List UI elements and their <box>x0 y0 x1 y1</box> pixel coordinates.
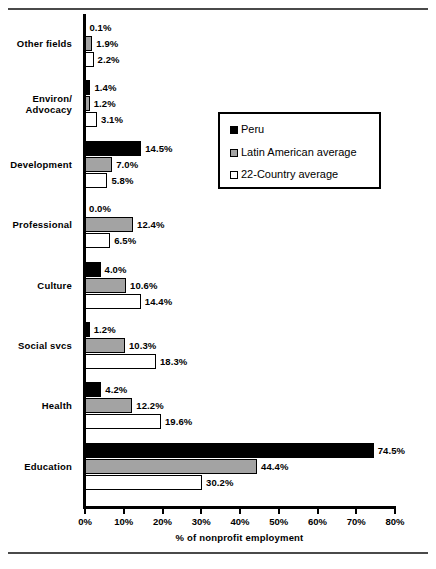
bar <box>85 475 202 490</box>
legend-box: Peru Latin American average 22-Country a… <box>218 112 381 189</box>
x-axis-tick <box>200 509 202 514</box>
bar <box>85 141 141 156</box>
bar-value-label: 1.4% <box>94 80 116 95</box>
bar <box>85 52 94 67</box>
bar-value-label: 1.2% <box>94 322 116 337</box>
bar <box>85 96 90 111</box>
legend-swatch-22-country-average <box>230 171 238 179</box>
legend-swatch-peru <box>230 126 238 134</box>
bar-value-label: 0.0% <box>89 201 111 216</box>
x-axis-tick <box>278 509 280 514</box>
bar <box>85 398 132 413</box>
bar <box>85 382 101 397</box>
x-axis-tick <box>317 509 319 514</box>
bar-value-label: 12.4% <box>137 217 164 232</box>
bar <box>85 338 125 353</box>
x-axis-tick-label: 30% <box>181 516 221 527</box>
category-label: Professional <box>0 219 72 230</box>
legend-label-latin-american-average: Latin American average <box>241 147 357 158</box>
bar-value-label: 14.5% <box>145 141 172 156</box>
x-axis-tick <box>84 509 86 514</box>
category-label: Education <box>0 461 72 472</box>
bar-value-label: 10.3% <box>129 338 156 353</box>
top-rule <box>8 8 428 10</box>
bar <box>85 112 97 127</box>
bar-value-label: 1.9% <box>96 36 118 51</box>
bar-value-label: 4.0% <box>105 262 127 277</box>
bar-value-label: 44.4% <box>261 459 288 474</box>
plot-area: Other fields0.1%1.9%2.2%Environ/ Advocac… <box>0 14 436 506</box>
figure: Other fields0.1%1.9%2.2%Environ/ Advocac… <box>0 0 436 569</box>
bar-value-label: 10.6% <box>130 278 157 293</box>
legend-label-peru: Peru <box>241 124 264 135</box>
bar-value-label: 74.5% <box>378 443 405 458</box>
x-axis-tick-label: 0% <box>65 516 105 527</box>
category-label: Environ/ Advocacy <box>0 93 72 115</box>
x-axis-tick <box>394 509 396 514</box>
bar <box>85 173 107 188</box>
legend-swatch-latin-american-average <box>230 149 238 157</box>
x-axis-tick-label: 40% <box>220 516 260 527</box>
bar <box>85 354 156 369</box>
bar-value-label: 7.0% <box>116 157 138 172</box>
bar <box>85 233 110 248</box>
bar <box>85 322 90 337</box>
legend-item-22-country-average: 22-Country average <box>230 169 338 180</box>
x-axis-tick-label: 80% <box>375 516 415 527</box>
x-axis-tick-label: 70% <box>336 516 376 527</box>
x-axis-tick-label: 60% <box>298 516 338 527</box>
bar <box>85 294 141 309</box>
x-axis-tick-label: 10% <box>104 516 144 527</box>
x-axis-tick-label: 20% <box>143 516 183 527</box>
bar <box>85 36 92 51</box>
legend-item-latin-american-average: Latin American average <box>230 147 357 158</box>
bar <box>85 262 101 277</box>
bar-value-label: 1.2% <box>94 96 116 111</box>
category-label: Development <box>0 159 72 170</box>
bar <box>85 443 374 458</box>
bar-value-label: 12.2% <box>136 398 163 413</box>
bar-value-label: 18.3% <box>160 354 187 369</box>
bar-value-label: 3.1% <box>101 112 123 127</box>
category-label: Social svcs <box>0 340 72 351</box>
x-axis-tick <box>355 509 357 514</box>
bar-value-label: 19.6% <box>165 414 192 429</box>
bar <box>85 414 161 429</box>
bar-value-label: 4.2% <box>105 382 127 397</box>
bar-value-label: 0.1% <box>89 20 111 35</box>
category-label: Health <box>0 400 72 411</box>
x-axis-title: % of nonprofit employment <box>83 532 396 543</box>
category-label: Culture <box>0 280 72 291</box>
legend-label-22-country-average: 22-Country average <box>241 169 338 180</box>
x-axis-tick <box>239 509 241 514</box>
bar <box>85 459 257 474</box>
bar-value-label: 6.5% <box>114 233 136 248</box>
bar-value-label: 2.2% <box>98 52 120 67</box>
bar-value-label: 14.4% <box>145 294 172 309</box>
bar <box>85 157 112 172</box>
category-label: Other fields <box>0 38 72 49</box>
x-axis-tick <box>123 509 125 514</box>
x-axis-tick-label: 50% <box>259 516 299 527</box>
bar <box>85 217 133 232</box>
bar <box>85 278 126 293</box>
bar-value-label: 5.8% <box>111 173 133 188</box>
legend-item-peru: Peru <box>230 124 264 135</box>
bottom-rule <box>8 552 428 554</box>
x-axis-tick <box>162 509 164 514</box>
bar <box>85 80 90 95</box>
bar-value-label: 30.2% <box>206 475 233 490</box>
